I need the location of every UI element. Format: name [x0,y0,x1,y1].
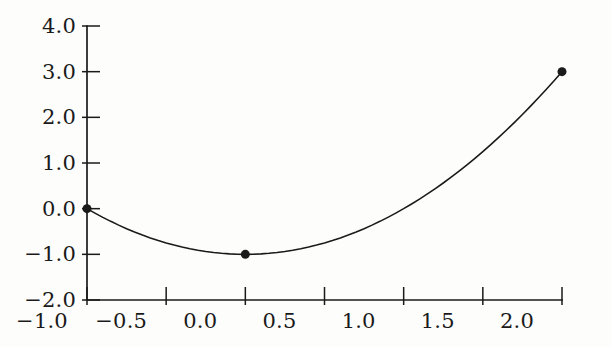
data-point-marker [558,67,567,76]
x-tick-label: 2.0 [472,311,562,332]
data-point-marker [83,204,92,213]
x-tick-label: 1.5 [393,311,483,332]
y-tick-label: −1.0 [12,244,76,265]
y-tick-label: 2.0 [18,107,76,128]
y-tick-label: 1.0 [18,153,76,174]
y-tick-label: 4.0 [18,16,76,37]
x-tick-label: −1.0 [0,311,87,332]
y-tick-label: 3.0 [18,61,76,82]
quadratic-plot-figure [0,0,612,347]
figure-background [0,0,612,347]
data-point-marker [241,250,250,259]
x-tick-label: 1.0 [314,311,404,332]
chart-page: 4.0 3.0 2.0 1.0 0.0 −1.0 −2.0 −1.0 −0.5 … [0,0,612,347]
x-tick-label: 0.0 [155,311,245,332]
x-tick-label: −0.5 [76,311,166,332]
y-tick-label: 0.0 [18,198,76,219]
x-tick-label: 0.5 [235,311,325,332]
y-tick-label: −2.0 [12,290,76,311]
